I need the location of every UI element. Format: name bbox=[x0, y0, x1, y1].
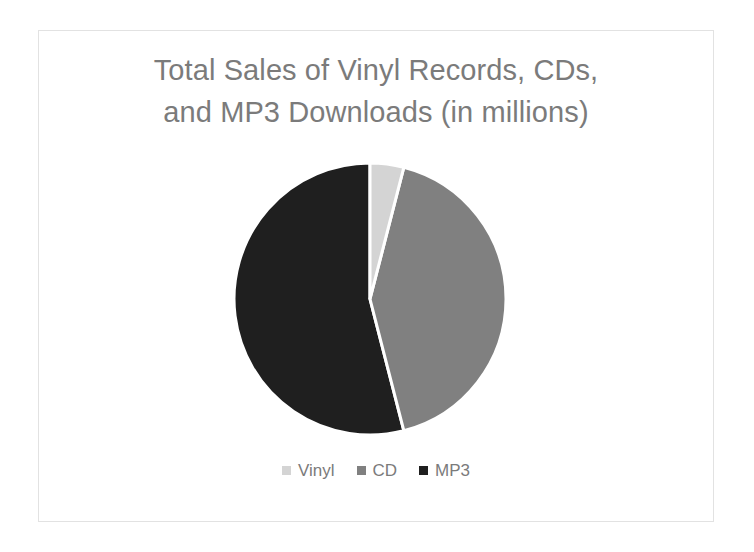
legend-swatch-vinyl bbox=[282, 466, 291, 475]
legend-swatch-mp3 bbox=[419, 466, 428, 475]
legend-label-vinyl: Vinyl bbox=[298, 462, 335, 479]
legend-item-mp3[interactable]: MP3 bbox=[419, 462, 470, 479]
legend-item-cd[interactable]: CD bbox=[357, 462, 398, 479]
legend-swatch-cd bbox=[357, 466, 366, 475]
legend-label-mp3: MP3 bbox=[435, 462, 470, 479]
chart-legend: Vinyl CD MP3 bbox=[39, 462, 713, 479]
pie-plot-area bbox=[234, 163, 506, 435]
chart-title: Total Sales of Vinyl Records, CDs, and M… bbox=[39, 49, 713, 133]
chart-title-line-2: and MP3 Downloads (in millions) bbox=[79, 91, 673, 133]
chart-title-line-1: Total Sales of Vinyl Records, CDs, bbox=[79, 49, 673, 91]
pie-svg bbox=[234, 163, 506, 435]
pie-chart[interactable]: Total Sales of Vinyl Records, CDs, and M… bbox=[39, 31, 713, 521]
slide-frame: Total Sales of Vinyl Records, CDs, and M… bbox=[38, 30, 714, 522]
legend-label-cd: CD bbox=[373, 462, 398, 479]
legend-item-vinyl[interactable]: Vinyl bbox=[282, 462, 335, 479]
